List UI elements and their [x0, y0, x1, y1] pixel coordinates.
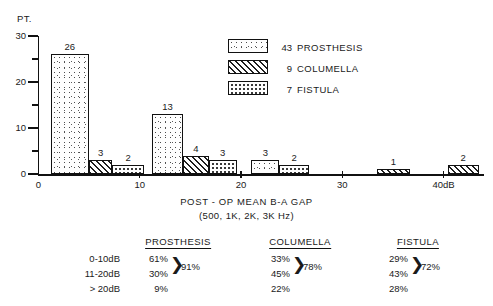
bar-columella: [448, 165, 479, 174]
y-tick-minor: [32, 150, 38, 151]
x-tick-label: 10: [134, 180, 145, 190]
bar-value-label: 2: [125, 153, 130, 163]
summary-table: 0-10dB11-20dB> 20dBPROSTHESIS61%30%9%❯91…: [0, 236, 493, 306]
legend-swatch-columella: [228, 60, 268, 74]
bar-fistula: [209, 160, 237, 174]
legend-count: 9: [274, 63, 292, 74]
x-axis-title: POST - OP MEAN B-A GAP (500, 1K, 2K, 3K …: [0, 196, 493, 221]
legend-label: FISTULA: [297, 84, 339, 95]
summary-column-header: PROSTHESIS: [145, 236, 211, 249]
bar-columella: [377, 169, 410, 174]
summary-value: 45%: [264, 269, 290, 279]
y-tick-label: 0: [8, 169, 26, 179]
y-tick-major: [28, 173, 38, 174]
x-tick-label: 40dB: [432, 180, 454, 190]
legend-count: 43: [274, 42, 292, 53]
legend-label: PROSTHESIS: [297, 42, 363, 53]
bar-prosthesis: [51, 54, 89, 174]
legend-swatch-fistula: [228, 81, 268, 95]
x-tick-label: 30: [337, 180, 348, 190]
bar-columella: [89, 160, 112, 174]
legend-swatch-prosthesis: [228, 39, 268, 53]
x-tick-label: 0: [36, 180, 41, 190]
x-axis-line: [38, 174, 484, 176]
chart-legend: 43PROSTHESIS9COLUMELLA7FISTULA: [228, 39, 413, 102]
legend-item: 43PROSTHESIS: [228, 39, 413, 57]
summary-value: 43%: [382, 269, 408, 279]
summary-value: 9%: [142, 284, 168, 294]
y-tick-major: [28, 127, 38, 128]
legend-label: COLUMELLA: [297, 63, 359, 74]
bar-value-label: 4: [193, 144, 198, 154]
summary-group-total: 72%: [421, 262, 440, 272]
y-tick-major: [28, 81, 38, 82]
legend-item: 7FISTULA: [228, 81, 413, 99]
x-axis-title-main: POST - OP MEAN B-A GAP: [180, 196, 313, 207]
legend-item: 9COLUMELLA: [228, 60, 413, 78]
summary-column-header: COLUMELLA: [269, 236, 331, 249]
summary-row-label: 0-10dB: [48, 254, 120, 264]
bar-prosthesis: [152, 114, 183, 174]
summary-value: 29%: [382, 254, 408, 264]
bar-value-label: 3: [98, 148, 103, 158]
summary-row-label: > 20dB: [48, 284, 120, 294]
summary-value: 22%: [264, 284, 290, 294]
y-tick-major: [28, 35, 38, 36]
bar-prosthesis: [251, 160, 279, 174]
bar-chart: PT. 0102030 010203040dB 261333412232 43P…: [0, 0, 493, 200]
summary-group-total: 78%: [303, 262, 322, 272]
bar-value-label: 2: [292, 153, 297, 163]
y-tick-label: 30: [8, 31, 26, 41]
y-tick-minor: [32, 104, 38, 105]
x-axis-title-frequencies: (500, 1K, 2K, 3K Hz): [0, 210, 493, 221]
bar-value-label: 2: [461, 153, 466, 163]
x-tick: [443, 171, 444, 178]
x-tick-label: 20: [236, 180, 247, 190]
bar-value-label: 1: [391, 157, 396, 167]
summary-value: 61%: [142, 254, 168, 264]
bar-columella: [183, 156, 208, 174]
summary-row-label: 11-20dB: [48, 269, 120, 279]
bar-value-label: 13: [162, 102, 173, 112]
y-axis-line: [38, 36, 39, 175]
figure-root: PT. 0102030 010203040dB 261333412232 43P…: [0, 0, 493, 306]
bar-fistula: [112, 165, 143, 174]
summary-value: 28%: [382, 284, 408, 294]
bar-value-label: 26: [65, 42, 76, 52]
summary-column-header: FISTULA: [397, 236, 439, 249]
summary-value: 30%: [142, 269, 168, 279]
x-tick: [240, 171, 241, 178]
bar-value-label: 3: [220, 148, 225, 158]
y-axis-tick-labels: 0102030: [0, 0, 26, 200]
bar-value-label: 3: [263, 148, 268, 158]
legend-count: 7: [274, 84, 292, 95]
x-tick: [342, 171, 343, 178]
bar-fistula: [279, 165, 308, 174]
y-tick-label: 10: [8, 123, 26, 133]
y-tick-label: 20: [8, 77, 26, 87]
summary-group-total: 91%: [181, 262, 200, 272]
summary-value: 33%: [264, 254, 290, 264]
y-tick-minor: [32, 58, 38, 59]
